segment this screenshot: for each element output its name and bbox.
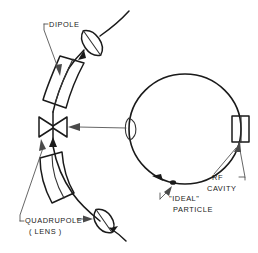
label-dipole: DIPOLE [49,20,79,29]
leader-ring-lens-line [78,127,126,128]
diagram-canvas: DIPOLE QUADRUPOLE ( LENS ) RF CAVITY "ID… [0,0,258,253]
label-rf-cavity-line2: CAVITY [207,184,236,193]
quadrupole-lens-on-ring [125,118,136,140]
label-quadrupole-group: QUADRUPOLE ( LENS ) [20,216,82,236]
label-quadrupole: QUADRUPOLE [25,216,82,225]
leader-dipole-arrow [55,64,62,76]
label-dipole-group: DIPOLE [44,20,79,29]
leader-dipole-line [44,24,58,68]
quadrupole-lens-on-ring-body [125,118,136,140]
leader-quadrupole-arrow [39,139,46,151]
leader-dipole [44,24,62,76]
ideal-particle-dot [170,180,176,185]
storage-ring [129,74,241,184]
accelerator-diagram: DIPOLE QUADRUPOLE ( LENS ) RF CAVITY "ID… [0,0,258,253]
label-ideal-particle-line2: PARTICLE [173,205,213,214]
quadrupole-lens-lower-axis [96,210,112,233]
label-rf-cavity-group: RF CAVITY [207,173,236,193]
label-quadrupole-sub: ( LENS ) [29,227,62,236]
leader-ring-lens-arrow [68,123,80,131]
dipole-upper [43,56,84,108]
label-ideal-particle-group: "IDEAL" PARTICLE [169,194,213,214]
beam-path-top [100,11,129,36]
storage-ring-orbit [129,74,241,184]
leader-rf-cavity-bracket [239,177,245,180]
leader-ring-lens-to-quadrupole [68,123,126,131]
dipole-upper-body [43,56,84,108]
leader-rf-cavity-line2 [214,148,236,174]
leader-quadrupole-lens-arrow [83,216,93,223]
leader-rf-cavity-line [240,150,245,177]
rf-cavity [232,116,249,142]
label-rf-cavity-line1: RF [212,173,223,182]
leader-ideal-particle-line [160,193,166,199]
beam-trajectory [53,11,129,241]
dipole-lower [40,152,74,203]
quadrupole-lens-lower [89,205,119,237]
leader-quadrupole-line [20,148,43,221]
quadrupole-lens-upper-axis [83,31,100,56]
dipole-lower-body [40,152,74,203]
beam-arrow-up-quadrupole [49,137,57,147]
label-ideal-particle-line1: "IDEAL" [169,194,199,203]
